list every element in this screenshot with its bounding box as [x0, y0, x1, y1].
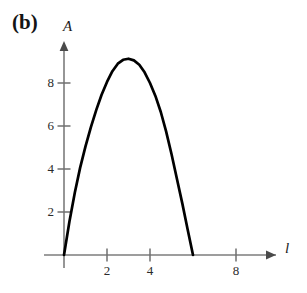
x-tick-label-2: 2: [99, 263, 115, 279]
y-axis-arrow-icon: [60, 41, 69, 51]
y-tick-label-2: 2: [38, 204, 54, 220]
x-tick-label-4: 4: [142, 263, 158, 279]
x-axis-arrow-icon: [266, 251, 276, 260]
x-tick-label-8: 8: [228, 263, 244, 279]
figure-panel-b: (b) A l 2 4 6 8 2 4 8: [0, 0, 307, 293]
y-tick-label-6: 6: [38, 118, 54, 134]
y-tick-label-8: 8: [38, 75, 54, 91]
y-tick-label-4: 4: [38, 161, 54, 177]
data-curve: [64, 59, 193, 255]
chart-canvas: [0, 0, 307, 293]
